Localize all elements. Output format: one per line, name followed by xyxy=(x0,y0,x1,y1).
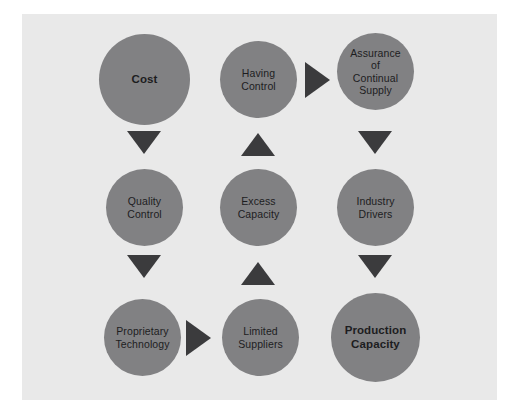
node-label-having-control: Having Control xyxy=(237,67,280,92)
arrow-having-control-to-assurance xyxy=(305,62,330,98)
node-quality-control[interactable]: Quality Control xyxy=(106,169,183,246)
node-label-limited-suppliers: Limited Suppliers xyxy=(234,325,287,350)
node-limited-suppliers[interactable]: Limited Suppliers xyxy=(222,299,299,376)
node-label-proprietary-technology: Proprietary Technology xyxy=(111,325,173,350)
arrow-proprietary-technology-to-limited-suppliers xyxy=(186,320,211,356)
node-industry-drivers[interactable]: Industry Drivers xyxy=(337,169,414,246)
node-label-cost: Cost xyxy=(128,73,162,87)
arrow-excess-capacity-to-having-control xyxy=(241,133,275,156)
node-having-control[interactable]: Having Control xyxy=(220,41,297,118)
node-cost[interactable]: Cost xyxy=(99,34,190,125)
arrow-quality-control-to-proprietary-technology xyxy=(127,255,161,278)
arrow-limited-suppliers-to-excess-capacity xyxy=(241,262,275,285)
node-label-excess-capacity: Excess Capacity xyxy=(234,195,284,220)
arrow-assurance-to-industry-drivers xyxy=(358,131,392,154)
node-label-quality-control: Quality Control xyxy=(123,195,166,220)
arrow-cost-to-quality-control xyxy=(127,131,161,154)
arrow-industry-drivers-to-production-capacity xyxy=(358,255,392,278)
node-label-assurance-of-continual-supply: Assurance of Continual Supply xyxy=(346,47,405,97)
node-production-capacity[interactable]: Production Capacity xyxy=(331,293,420,382)
diagram-canvas: CostHaving ControlAssurance of Continual… xyxy=(0,0,517,420)
node-proprietary-technology[interactable]: Proprietary Technology xyxy=(104,299,181,376)
node-label-industry-drivers: Industry Drivers xyxy=(352,195,398,220)
node-label-production-capacity: Production Capacity xyxy=(341,324,411,351)
node-assurance-of-continual-supply[interactable]: Assurance of Continual Supply xyxy=(337,33,414,110)
node-excess-capacity[interactable]: Excess Capacity xyxy=(220,169,297,246)
